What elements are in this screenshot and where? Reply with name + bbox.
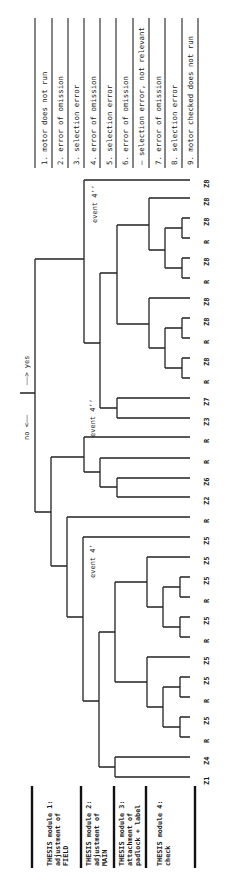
event-tree-diagram: 1. motor does not run 2. error of omissi… <box>0 0 234 886</box>
leaf-label: R <box>203 638 211 643</box>
leaf-label: Z8 <box>203 298 211 306</box>
leaf-label: R <box>203 339 211 344</box>
outcome-2: 2. error of omission <box>56 76 65 165</box>
leaf-label: Z5 <box>203 717 211 725</box>
svg-text:padlock + label: padlock + label <box>134 805 142 866</box>
leaf-label: Z5 <box>203 617 211 625</box>
svg-text:attachment of: attachment of <box>126 813 134 866</box>
svg-text:FIELD: FIELD <box>62 846 70 866</box>
module-3-label: THESIS module 3: attachment of padlock +… <box>118 801 142 866</box>
leaf-label: Z3 <box>203 418 211 426</box>
svg-text:check: check <box>164 846 172 866</box>
event-label: event 4’’ <box>91 185 99 223</box>
outcome-7: 7. error of omission <box>154 76 163 165</box>
leaf-label: Z5 <box>203 657 211 665</box>
module-legend: THESIS module 1: adjustment of FIELD THE… <box>32 786 195 868</box>
module-2-label: THESIS module 2: adjustment of MAIN <box>85 801 109 866</box>
svg-text:THESIS module 4:: THESIS module 4: <box>156 801 164 866</box>
leaf-label: Z5 <box>203 577 211 585</box>
leaf-label: Z1 <box>203 777 211 785</box>
yes-direction-label: ——> yes <box>23 355 31 385</box>
svg-text:THESIS module 1:: THESIS module 1: <box>46 801 54 866</box>
leaf-label: Z5 <box>203 557 211 565</box>
leaf-label: Z7 <box>203 398 211 406</box>
leaf-label: R <box>203 738 211 743</box>
outcome-1: 1. motor does not run <box>40 72 49 165</box>
leaf-labels: Z8 Z8 Z8 R Z8 R Z8 Z8 R Z8 R Z7 Z3 R R Z… <box>203 180 211 785</box>
leaf-label: R <box>203 518 211 523</box>
leaf-label: Z8 <box>203 318 211 326</box>
module-1-label: THESIS module 1: adjustment of FIELD <box>46 801 70 866</box>
no-direction-label: no <—— <box>23 414 31 440</box>
leaf-label: Z2 <box>203 497 211 505</box>
outcome-5: 5. selection error <box>105 84 114 165</box>
leaf-label: Z5 <box>203 677 211 685</box>
svg-text:adjustment of: adjustment of <box>54 813 62 866</box>
event-label: event 4’ <box>89 544 97 578</box>
leaf-label: Z8 <box>203 180 211 188</box>
outcome-6: 6. error of omission <box>121 76 130 165</box>
leaf-label: Z5 <box>203 537 211 545</box>
leaf-label: R <box>203 698 211 703</box>
leaf-label: R <box>203 239 211 244</box>
no-branch <box>35 437 190 777</box>
yes-branch <box>35 180 190 418</box>
module-4-label: THESIS module 4: check <box>156 801 172 866</box>
leaf-label: Z4 <box>203 757 211 765</box>
leaf-label: R <box>203 379 211 384</box>
outcome-legend: 1. motor does not run 2. error of omissi… <box>35 18 198 168</box>
outcome-not-relevant: – selection error, not relevant <box>137 27 146 165</box>
leaf-label: Z8 <box>203 218 211 226</box>
outcome-9: 9. motor checked does not run <box>186 36 195 165</box>
outcome-3: 3. selection error <box>72 84 81 165</box>
leaf-label: R <box>203 279 211 284</box>
svg-text:MAIN: MAIN <box>101 850 109 866</box>
decision-tree: ——> yes no <—— event 4’’ event 4’’ event… <box>20 180 190 777</box>
svg-text:THESIS module 3:: THESIS module 3: <box>118 801 126 866</box>
outcome-8: 8. selection error <box>170 84 179 165</box>
leaf-label: Z8 <box>203 358 211 366</box>
outcome-4: 4. error of omission <box>89 76 98 165</box>
leaf-label: R <box>203 598 211 603</box>
leaf-label: Z6 <box>203 478 211 486</box>
svg-text:THESIS module 2:: THESIS module 2: <box>85 801 93 866</box>
leaf-label: Z8 <box>203 258 211 266</box>
svg-text:adjustment of: adjustment of <box>93 813 101 866</box>
event-label: event 4’’ <box>89 399 97 437</box>
leaf-label: R <box>203 438 211 443</box>
leaf-label: Z8 <box>203 198 211 206</box>
leaf-label: R <box>203 459 211 464</box>
